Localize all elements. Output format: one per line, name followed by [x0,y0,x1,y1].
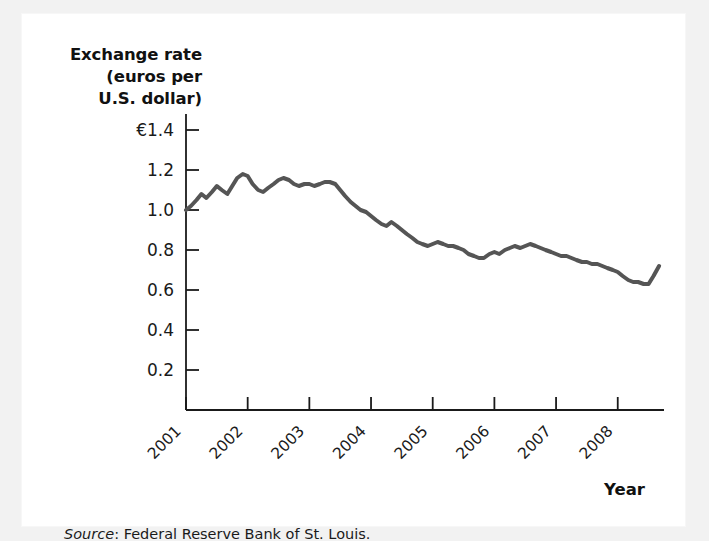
y-axis-ticks: 0.20.40.60.81.01.2€1.4 [136,120,199,380]
x-tick-label: 2007 [514,422,555,463]
source-value: Federal Reserve Bank of St. Louis. [124,526,371,541]
x-tick-label: 2001 [144,422,185,463]
y-tick-label: 1.2 [147,160,174,180]
source-note: Source: Federal Reserve Bank of St. Loui… [64,526,370,541]
figure-canvas: Exchange rate (euros per U.S. dollar) 0.… [0,0,709,541]
x-tick-label: 2003 [268,422,309,463]
x-tick-label: 2002 [206,422,247,463]
source-label: Source [64,526,114,541]
y-tick-label: 0.6 [147,280,174,300]
line-chart: 0.20.40.60.81.01.2€1.4 20012002200320042… [22,14,685,526]
y-tick-label: 0.2 [147,360,174,380]
source-separator: : [114,526,124,541]
x-tick-label: 2008 [576,422,617,463]
x-axis-title: Year [604,480,645,499]
x-tick-label: 2005 [391,422,432,463]
y-tick-label: 1.0 [147,200,174,220]
x-tick-label: 2006 [453,422,494,463]
exchange-rate-line [186,174,659,284]
chart-plate: Exchange rate (euros per U.S. dollar) 0.… [22,14,685,526]
y-tick-label: 0.4 [147,320,174,340]
x-tick-label: 2004 [329,422,370,463]
y-tick-label: 0.8 [147,240,174,260]
y-tick-label: €1.4 [136,120,174,140]
x-axis-ticks: 20012002200320042005200620072008 [144,397,618,463]
